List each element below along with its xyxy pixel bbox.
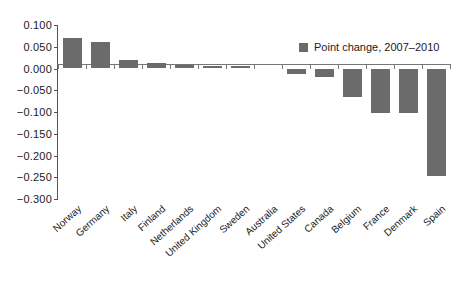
bar xyxy=(175,65,194,68)
y-tick-label: −0.150 xyxy=(17,128,58,140)
bar xyxy=(63,38,82,68)
x-axis-tick xyxy=(86,64,87,69)
x-axis-tick xyxy=(422,64,423,69)
x-axis-tick xyxy=(450,64,451,69)
x-axis-tick xyxy=(58,64,59,69)
bar xyxy=(203,66,222,69)
x-axis-tick xyxy=(282,64,283,69)
bar xyxy=(399,69,418,113)
legend-label: Point change, 2007–2010 xyxy=(314,41,439,53)
x-axis-tick xyxy=(254,64,255,69)
x-axis-tick xyxy=(394,64,395,69)
y-tick-label: −0.300 xyxy=(17,193,58,205)
chart-legend: Point change, 2007–2010 xyxy=(299,41,439,53)
bar xyxy=(287,69,306,74)
y-tick-label: −0.100 xyxy=(17,106,58,118)
x-axis-tick xyxy=(338,64,339,69)
x-axis-label-text: Spain xyxy=(421,203,447,228)
bar xyxy=(147,63,166,69)
y-tick-label: −0.200 xyxy=(17,150,58,162)
bar xyxy=(119,60,138,69)
legend-swatch-icon xyxy=(299,43,308,52)
y-tick-label: 0.050 xyxy=(23,41,58,53)
x-axis-tick xyxy=(226,64,227,69)
x-axis-tick xyxy=(366,64,367,69)
bar xyxy=(343,69,362,97)
bar xyxy=(315,69,334,78)
x-axis-label-text: Italy xyxy=(118,203,139,223)
x-axis-tick xyxy=(142,64,143,69)
y-tick-label: −0.250 xyxy=(17,171,58,183)
bar xyxy=(371,69,390,113)
y-tick-label: −0.050 xyxy=(17,84,58,96)
x-axis-tick xyxy=(114,64,115,69)
bar xyxy=(91,42,110,68)
y-tick-label: 0.000 xyxy=(23,63,58,75)
y-tick-label: 0.100 xyxy=(23,19,58,31)
x-axis-tick xyxy=(198,64,199,69)
x-axis-tick xyxy=(310,64,311,69)
bar xyxy=(231,66,250,68)
bar-chart: 0.1000.0500.000−0.050−0.100−0.150−0.200−… xyxy=(0,0,463,281)
bar xyxy=(427,69,446,176)
x-axis-tick xyxy=(170,64,171,69)
